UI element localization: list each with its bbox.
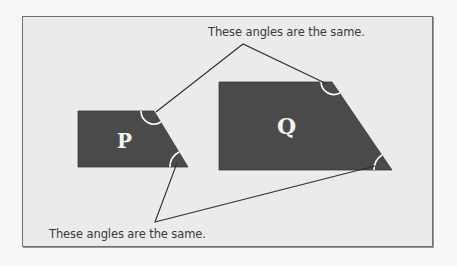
- shape-q-label: Q: [277, 115, 296, 137]
- leader-line-bottom: [155, 163, 375, 222]
- shape-p-label: P: [117, 131, 132, 151]
- annotation-bottom: These angles are the same.: [49, 227, 206, 241]
- shape-q: [219, 82, 392, 170]
- annotation-top: These angles are the same.: [208, 25, 365, 39]
